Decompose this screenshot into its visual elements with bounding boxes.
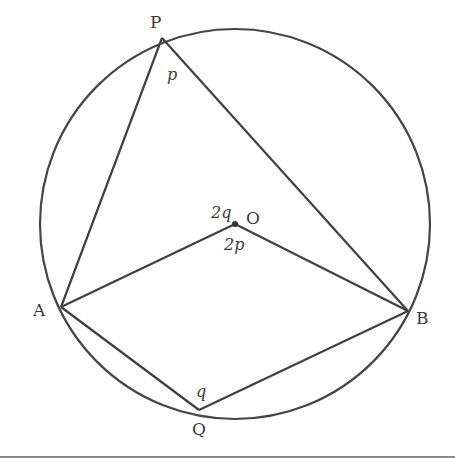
circle-theorem-diagram: P p O 2q 2p A B q Q [0,0,455,462]
angle-label-2p: 2p [223,235,244,254]
label-A: A [32,300,46,320]
label-P: P [150,12,161,32]
label-Q: Q [192,419,206,439]
segment-QB [199,311,408,410]
segment-AQ [61,307,199,410]
angle-label-2q: 2q [210,203,231,222]
label-O: O [246,208,260,228]
angle-label-q: q [196,382,206,401]
angle-label-p: p [167,65,177,84]
label-B: B [416,308,429,328]
segment-PB [162,38,408,311]
segment-OB [235,224,408,311]
center-dot [232,221,238,227]
